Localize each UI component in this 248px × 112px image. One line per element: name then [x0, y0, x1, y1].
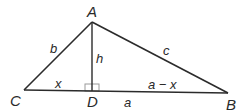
vertex-label-c: C: [10, 92, 21, 109]
side-label-c: c: [163, 43, 170, 58]
side-label-a-minus-x: a − x: [148, 77, 177, 92]
vertex-label-a: A: [86, 3, 97, 20]
vertex-label-b: B: [226, 96, 236, 112]
side-label-b: b: [50, 41, 57, 56]
side-label-h: h: [96, 51, 103, 66]
triangle-diagram: A B C D b c h x a − x a: [0, 0, 248, 112]
side-label-a: a: [124, 95, 131, 110]
side-label-x: x: [54, 76, 62, 91]
vertex-label-d: D: [87, 93, 98, 110]
